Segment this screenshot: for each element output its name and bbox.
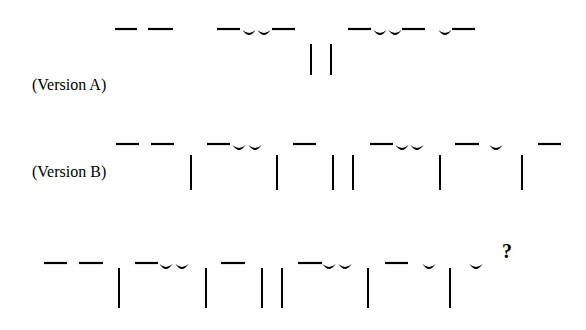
short-mark-icon	[374, 30, 387, 35]
short-mark-icon	[258, 30, 271, 35]
short-mark-icon	[243, 30, 256, 35]
short-mark-icon	[176, 264, 189, 269]
short-mark-icon	[423, 264, 436, 269]
short-mark-icon	[439, 30, 452, 35]
short-mark-icon	[160, 264, 173, 269]
short-mark-icon	[339, 264, 352, 269]
short-mark-icon	[396, 145, 409, 150]
short-mark-icon	[470, 264, 483, 269]
short-mark-icon	[411, 145, 424, 150]
version-b-label: (Version B)	[32, 163, 106, 181]
version-a-marks	[115, 29, 475, 75]
version-a-label: (Version A)	[32, 76, 106, 94]
short-mark-icon	[249, 145, 262, 150]
short-mark-icon	[323, 264, 336, 269]
version-c-marks	[44, 263, 483, 308]
question-mark: ?	[502, 240, 512, 262]
short-mark-icon	[490, 145, 503, 150]
short-mark-icon	[389, 30, 402, 35]
short-mark-icon	[233, 145, 246, 150]
version-b-marks	[116, 144, 561, 190]
